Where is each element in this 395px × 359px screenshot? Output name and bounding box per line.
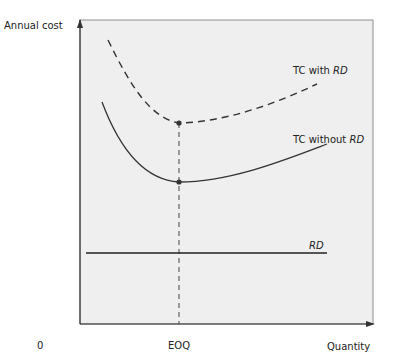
tc-without-rd-label: TC without RD — [292, 134, 364, 145]
tc-with-rd-label: TC with RD — [292, 65, 348, 76]
tc-without-rd-min-point — [176, 179, 181, 184]
rd-label: RD — [309, 240, 324, 251]
eoq-label: EOQ — [168, 340, 190, 351]
rd-italic: RD — [349, 134, 364, 145]
x-axis-label: Quantity — [327, 341, 370, 352]
tc-without-prefix: TC without — [292, 134, 349, 145]
chart: Annual cost Quantity 0 EOQ TC with RD TC… — [0, 0, 395, 359]
origin-label: 0 — [37, 340, 43, 351]
y-axis-label: Annual cost — [4, 20, 63, 31]
rd-italic: RD — [333, 65, 348, 76]
tc-with-rd-min-point — [176, 120, 181, 125]
tc-with-prefix: TC with — [292, 65, 333, 76]
